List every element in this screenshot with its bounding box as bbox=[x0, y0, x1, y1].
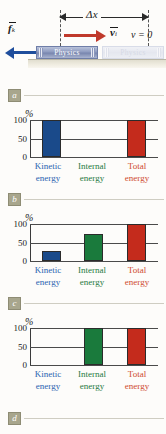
energy-bar-chart-c: % 100 50 0 Kinetic energy Internal energ… bbox=[0, 316, 166, 402]
panel-d-rule bbox=[24, 418, 164, 419]
final-velocity-label: v = 0 bbox=[131, 29, 152, 40]
category-internal-line1-a: Internal bbox=[70, 161, 114, 173]
gridline-0-b bbox=[30, 261, 158, 262]
category-kinetic-line2-b: energy bbox=[26, 277, 70, 289]
surface-line bbox=[28, 59, 166, 60]
friction-vector-label: fk bbox=[8, 22, 16, 34]
category-internal-c: Internal energy bbox=[70, 369, 114, 392]
category-kinetic-line1-a: Kinetic bbox=[26, 161, 70, 173]
book-spine-left-icon bbox=[105, 48, 109, 57]
category-total-line2-a: energy bbox=[115, 173, 159, 185]
displacement-dimension-line bbox=[60, 17, 148, 18]
category-total-b: Total energy bbox=[115, 265, 159, 288]
panel-a-badge: a bbox=[8, 89, 21, 102]
category-kinetic-line2-a: energy bbox=[26, 173, 70, 185]
book-spine-left-icon bbox=[39, 48, 43, 57]
category-labels-b: Kinetic energy Internal energy Total ene… bbox=[30, 265, 162, 293]
panel-b-rule bbox=[24, 199, 164, 200]
velocity-vector-label: vi bbox=[110, 27, 118, 38]
category-kinetic-line1-c: Kinetic bbox=[26, 369, 70, 381]
category-total-a: Total energy bbox=[115, 161, 159, 184]
y-tick-50-a: 50 bbox=[18, 135, 27, 144]
surface-shading bbox=[28, 59, 166, 68]
panel-d-badge: d bbox=[8, 412, 21, 425]
plot-area-b: 100 50 0 bbox=[30, 224, 158, 262]
category-labels-c: Kinetic energy Internal energy Total ene… bbox=[30, 369, 162, 397]
friction-arrow-icon bbox=[13, 51, 38, 54]
category-internal-line2-c: energy bbox=[70, 381, 114, 393]
category-total-line2-b: energy bbox=[115, 277, 159, 289]
category-internal-b: Internal energy bbox=[70, 265, 114, 288]
bar-total-b bbox=[127, 224, 146, 261]
book-initial-title: Physics bbox=[54, 48, 80, 57]
category-total-c: Total energy bbox=[115, 369, 159, 392]
category-internal-line1-b: Internal bbox=[70, 265, 114, 277]
panel-a-rule bbox=[24, 95, 164, 96]
gridline-0-a bbox=[30, 157, 158, 158]
displacement-label: Δx bbox=[83, 8, 101, 20]
y-tick-100-c: 100 bbox=[14, 324, 28, 333]
y-tick-50-c: 50 bbox=[18, 343, 27, 352]
book-initial-position: Physics bbox=[36, 46, 98, 59]
panel-b-badge: b bbox=[8, 193, 21, 206]
book-final-position: Physics bbox=[102, 46, 164, 59]
plot-area-c: 100 50 0 bbox=[30, 328, 158, 366]
displacement-arrow-right-icon bbox=[142, 13, 149, 21]
category-kinetic-line2-c: energy bbox=[26, 381, 70, 393]
category-kinetic-b: Kinetic energy bbox=[26, 265, 70, 288]
y-tick-50-b: 50 bbox=[18, 239, 27, 248]
bar-internal-c bbox=[84, 328, 103, 365]
friction-subscript: k bbox=[12, 26, 15, 34]
physics-diagram: Δx vi v = 0 fk Physics Physics bbox=[0, 0, 166, 88]
bar-kinetic-a bbox=[42, 120, 61, 157]
energy-bar-chart-b: % 100 50 0 Kinetic energy Internal energ… bbox=[0, 212, 166, 298]
category-internal-line2-b: energy bbox=[70, 277, 114, 289]
panel-c-badge: c bbox=[8, 297, 21, 310]
velocity-arrow-icon bbox=[64, 34, 97, 37]
energy-bar-chart-a: % 100 50 0 Kinetic energy Internal energ… bbox=[0, 108, 166, 194]
book-spine-right-icon bbox=[91, 48, 95, 57]
friction-arrow-head-icon bbox=[5, 47, 14, 59]
bar-total-c bbox=[127, 328, 146, 365]
velocity-subscript: i bbox=[115, 30, 117, 38]
category-internal-line1-c: Internal bbox=[70, 369, 114, 381]
plot-area-a: 100 50 0 bbox=[30, 120, 158, 158]
category-labels-a: Kinetic energy Internal energy Total ene… bbox=[30, 161, 162, 189]
bar-kinetic-b bbox=[42, 251, 61, 261]
bar-total-a bbox=[127, 120, 146, 157]
velocity-arrow-head-icon bbox=[96, 30, 106, 42]
category-total-line1-a: Total bbox=[115, 161, 159, 173]
gridline-0-c bbox=[30, 365, 158, 366]
y-tick-100-a: 100 bbox=[14, 116, 28, 125]
y-tick-100-b: 100 bbox=[14, 220, 28, 229]
category-total-line1-c: Total bbox=[115, 369, 159, 381]
bar-internal-b bbox=[84, 234, 103, 261]
displacement-arrow-left-icon bbox=[59, 13, 66, 21]
category-total-line1-b: Total bbox=[115, 265, 159, 277]
category-internal-line2-a: energy bbox=[70, 173, 114, 185]
book-final-title: Physics bbox=[120, 48, 146, 57]
book-spine-right-icon bbox=[157, 48, 161, 57]
category-kinetic-line1-b: Kinetic bbox=[26, 265, 70, 277]
category-total-line2-c: energy bbox=[115, 381, 159, 393]
category-internal-a: Internal energy bbox=[70, 161, 114, 184]
category-kinetic-c: Kinetic energy bbox=[26, 369, 70, 392]
panel-c-rule bbox=[24, 303, 164, 304]
category-kinetic-a: Kinetic energy bbox=[26, 161, 70, 184]
